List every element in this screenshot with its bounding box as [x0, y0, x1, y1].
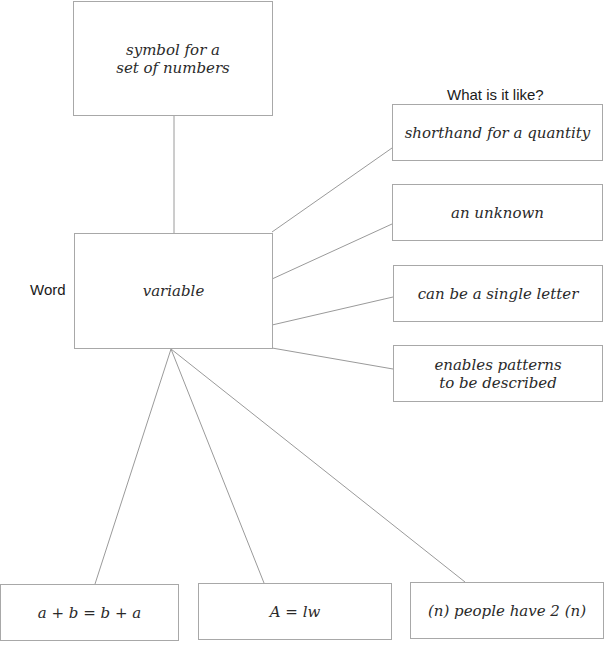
characteristic-box: shorthand for a quantity — [392, 104, 603, 161]
characteristic-text: enables patterns to be described — [434, 356, 561, 392]
example-box: (n) people have 2 (n) — [410, 582, 604, 639]
characteristic-box: enables patterns to be described — [393, 345, 603, 402]
center-word-text: variable — [143, 282, 205, 300]
center-word-box: variable — [74, 233, 273, 349]
example-text: (n) people have 2 (n) — [428, 602, 586, 620]
connector-char-4 — [272, 348, 393, 369]
definition-text: symbol for a set of numbers — [116, 41, 230, 77]
concept-map: symbol for a set of numbers Word variabl… — [0, 0, 612, 652]
connector-char-2 — [272, 224, 392, 279]
example-text: A = lw — [270, 603, 321, 621]
characteristic-box: an unknown — [392, 184, 603, 241]
definition-box: symbol for a set of numbers — [73, 1, 273, 116]
connector-char-1 — [272, 148, 392, 232]
characteristic-text: can be a single letter — [418, 285, 579, 303]
connector-example-1 — [95, 349, 171, 584]
example-box: a + b = b + a — [0, 584, 179, 641]
connector-example-2 — [171, 349, 264, 583]
example-text: a + b = b + a — [38, 604, 141, 622]
characteristic-box: can be a single letter — [393, 265, 603, 322]
example-box: A = lw — [198, 583, 392, 640]
word-label: Word — [30, 281, 66, 298]
connector-char-3 — [272, 297, 393, 325]
characteristics-label: What is it like? — [447, 86, 544, 103]
characteristic-text: an unknown — [451, 204, 544, 222]
characteristic-text: shorthand for a quantity — [405, 124, 591, 142]
